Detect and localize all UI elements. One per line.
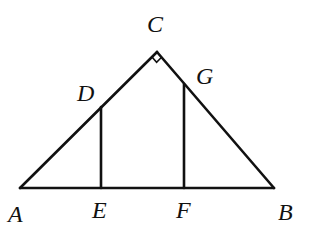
label-point-c: C: [147, 11, 164, 37]
segment-CB: [157, 52, 274, 188]
segment-AC: [20, 52, 157, 188]
label-point-b: B: [278, 199, 293, 225]
label-point-e: E: [91, 197, 107, 223]
point-labels-group: A B C D E F G: [6, 11, 293, 227]
segments-group: [20, 52, 274, 188]
label-point-a: A: [6, 201, 23, 227]
geometry-diagram: A B C D E F G: [0, 0, 314, 241]
right-angle-mark-c: [152, 57, 162, 62]
label-point-f: F: [175, 197, 191, 223]
label-point-d: D: [76, 80, 94, 106]
label-point-g: G: [196, 63, 213, 89]
